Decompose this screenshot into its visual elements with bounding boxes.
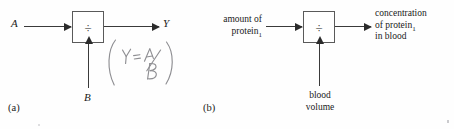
divide-icon: ÷ — [315, 21, 322, 34]
panel-a-input-top-arrow — [24, 26, 71, 27]
panel-a-input-top-label: A — [11, 18, 18, 29]
panel-b-output-line2-text: of protein — [375, 20, 412, 30]
panel-b-input-top-line1: amount of — [200, 14, 262, 26]
panel-b-input-top-line2-text: protein — [232, 26, 259, 36]
panel-b-input-top-line2: protein1 — [200, 26, 262, 38]
figure-canvas: A ÷ Y B — [0, 0, 454, 129]
panel-b-output-line3: in blood — [375, 31, 454, 43]
scan-artifact-speck — [38, 124, 40, 126]
panel-b-input-top-subscript: 1 — [259, 30, 263, 38]
panel-b-output-arrow — [335, 26, 371, 27]
panel-a-input-bottom-arrow — [88, 43, 89, 88]
panel-b-caption: (b) — [203, 103, 215, 114]
panel-b-input-top-label: amount of protein1 — [200, 14, 262, 37]
panel-b-output-line2: of protein1 — [375, 20, 454, 32]
panel-a-output-label: Y — [163, 18, 169, 29]
panel-b-input-bottom-line1: blood — [290, 90, 350, 102]
panel-a-input-bottom-label: B — [84, 92, 91, 103]
panel-a-caption: (a) — [8, 103, 20, 114]
panel-a-output-arrow — [104, 26, 159, 27]
panel-a-handwritten-annotation — [104, 36, 178, 88]
panel-a: A ÷ Y B — [0, 0, 200, 129]
panel-b-output-subscript: 1 — [412, 24, 416, 32]
divide-icon: ÷ — [84, 21, 91, 34]
panel-b-input-bottom-line2: volume — [290, 102, 350, 114]
panel-b-output-label: concentration of protein1 in blood — [375, 8, 454, 43]
panel-b-output-line1: concentration — [375, 8, 454, 20]
panel-b-input-bottom-label: blood volume — [290, 90, 350, 113]
panel-b-input-bottom-arrow — [319, 43, 320, 86]
scan-artifact-speck — [447, 120, 449, 123]
panel-b: amount of protein1 ÷ concentration of pr… — [200, 0, 454, 129]
panel-b-input-top-arrow — [266, 26, 302, 27]
